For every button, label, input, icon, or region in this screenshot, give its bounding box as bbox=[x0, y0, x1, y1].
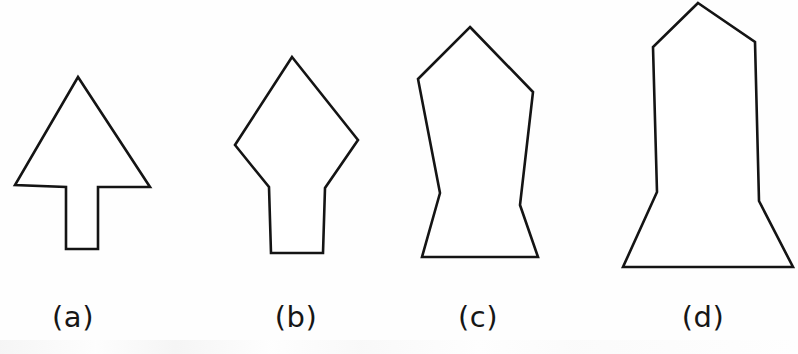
figure-container: (a) (b) (c) (d) bbox=[0, 0, 798, 354]
shape-figure-canvas bbox=[0, 0, 798, 354]
shape-b-label: (b) bbox=[275, 300, 318, 334]
shape-c-label: (c) bbox=[458, 300, 498, 334]
shape-d-outline bbox=[623, 3, 793, 267]
shape-a-label: (a) bbox=[52, 300, 94, 334]
shape-d-label: (d) bbox=[682, 300, 725, 334]
shape-b-outline bbox=[235, 57, 358, 253]
shape-c-outline bbox=[418, 27, 538, 257]
shape-a-outline bbox=[15, 77, 150, 249]
